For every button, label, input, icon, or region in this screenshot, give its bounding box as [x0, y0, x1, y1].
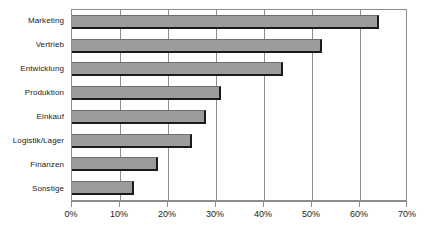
bar-row: [72, 153, 406, 177]
bar-row: [72, 58, 406, 82]
bar-row: [72, 81, 406, 105]
category-label: Logistik/Lager: [0, 129, 68, 153]
x-axis-tick-label: 40%: [254, 210, 272, 219]
bar-row: [72, 34, 406, 58]
bar-logistik-lager: [71, 134, 192, 148]
x-axis-tick-label: 20%: [158, 210, 176, 219]
x-axis-tick: [406, 201, 407, 207]
bar-row: [72, 10, 406, 34]
bar-marketing: [71, 15, 379, 29]
bar-row: [72, 176, 406, 200]
bar-einkauf: [71, 110, 206, 124]
category-label: Entwicklung: [0, 57, 68, 81]
bar-sonstige: [71, 181, 134, 195]
bar-chart: Marketing Vertrieb Entwicklung Produktio…: [0, 0, 433, 233]
bar-vertrieb: [71, 39, 322, 53]
x-axis-tick: [311, 201, 312, 207]
x-axis-tick-label: 0%: [64, 210, 77, 219]
x-axis-tick-label: 70%: [398, 210, 416, 219]
bar-row: [72, 105, 406, 129]
bars-layer: [72, 10, 406, 200]
plot-area: [71, 9, 407, 201]
x-axis-tick: [119, 201, 120, 207]
category-label: Sonstige: [0, 177, 68, 201]
category-label: Produktion: [0, 81, 68, 105]
bar-finanzen: [71, 157, 158, 171]
x-axis-tick: [263, 201, 264, 207]
x-axis-tick: [215, 201, 216, 207]
category-label: Vertrieb: [0, 33, 68, 57]
category-axis: Marketing Vertrieb Entwicklung Produktio…: [0, 9, 68, 201]
x-axis: [71, 201, 407, 209]
category-label: Finanzen: [0, 153, 68, 177]
category-label: Einkauf: [0, 105, 68, 129]
x-axis-tick: [167, 201, 168, 207]
x-axis-tick-label: 30%: [206, 210, 224, 219]
x-axis-tick-label: 10%: [110, 210, 128, 219]
x-axis-tick: [359, 201, 360, 207]
x-axis-tick: [71, 201, 72, 207]
x-axis-tick-label: 60%: [350, 210, 368, 219]
x-axis-line: [71, 201, 407, 202]
bar-entwicklung: [71, 62, 283, 76]
x-tick-labels: 0%10%20%30%40%50%60%70%: [71, 210, 407, 224]
bar-produktion: [71, 86, 221, 100]
x-axis-tick-label: 50%: [302, 210, 320, 219]
bar-row: [72, 129, 406, 153]
category-label: Marketing: [0, 9, 68, 33]
